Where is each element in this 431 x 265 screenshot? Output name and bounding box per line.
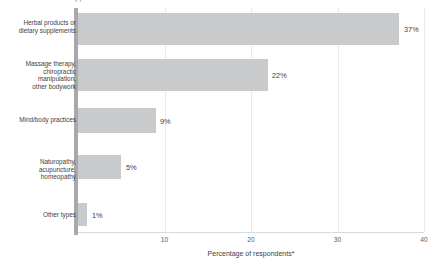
x-tick-label-20: 20 [247, 236, 254, 243]
category-label: Naturopathy, acupuncture, homeopathy [2, 158, 76, 181]
bar-row: Mind/body practices 9% [0, 108, 431, 133]
bar-row: Naturopathy, acupuncture, homeopathy 5% [0, 155, 431, 179]
x-axis-title: Percentage of respondents* [78, 250, 424, 257]
bar-row: Massage therapy, chiropractic manipulati… [0, 59, 431, 91]
bar-row: Other types 1% [0, 203, 431, 226]
bar-other-types [78, 203, 87, 226]
category-label-line: acupuncture, [2, 166, 76, 174]
category-label-line: homeopathy [2, 173, 76, 181]
category-label: Other types [2, 211, 76, 219]
x-axis-baseline [78, 232, 424, 233]
category-label-line: Massage therapy, [2, 60, 76, 68]
bar-value-label: 37% [404, 25, 419, 34]
bar-mind-body-practices [78, 108, 156, 133]
category-label-line: chiropractic [2, 68, 76, 76]
x-tick-label-40: 40 [420, 236, 427, 243]
category-label-line: other bodywork [2, 83, 76, 91]
category-label-line: Naturopathy, [2, 158, 76, 166]
category-label-line: Mind/body practices [2, 116, 76, 124]
bar-value-label: 9% [160, 116, 171, 125]
category-label-line: dietary supplements [2, 27, 76, 35]
category-label-line: Other types [2, 211, 76, 219]
category-label: Herbal products or dietary supplements [2, 19, 76, 34]
category-label: Mind/body practices [2, 116, 76, 124]
category-label-line: manipulation, [2, 75, 76, 83]
bar-massage-therapy [78, 59, 268, 91]
x-tick-label-10: 10 [161, 236, 168, 243]
bar-herbal-products [78, 13, 399, 45]
bar-value-label: 5% [126, 163, 137, 172]
bar-chart-plot-area: Herbal products or dietary supplements 3… [0, 0, 431, 265]
chart-screenshot: y) Herbal products or dietary supplement… [0, 0, 431, 265]
bar-naturopathy [78, 155, 121, 179]
bar-row: Herbal products or dietary supplements 3… [0, 13, 431, 45]
category-label: Massage therapy, chiropractic manipulati… [2, 60, 76, 90]
bar-value-label: 22% [272, 71, 287, 80]
bar-value-label: 1% [92, 210, 103, 219]
x-tick-label-30: 30 [334, 236, 341, 243]
category-label-line: Herbal products or [2, 19, 76, 27]
